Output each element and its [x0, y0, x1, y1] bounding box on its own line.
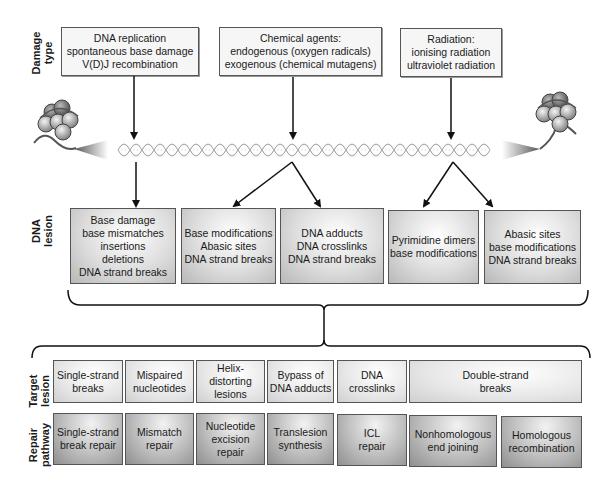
brace-targets-right	[324, 340, 590, 358]
right-cone	[502, 140, 540, 160]
arrow-dna-to-lesion-5	[453, 162, 492, 206]
brace-lesions	[68, 290, 588, 310]
brace-targets	[32, 310, 324, 358]
arrow-dna-to-lesion-2	[234, 162, 292, 206]
left-cone	[74, 140, 108, 160]
diagram-graphics	[0, 0, 610, 488]
left-nucleosome-icon	[34, 100, 78, 149]
right-nucleosome-icon	[536, 92, 576, 149]
arrow-dna-to-lesion-3	[292, 162, 320, 206]
arrow-dna-to-lesion-4	[424, 162, 453, 206]
dna-double-helix-icon	[118, 144, 490, 156]
